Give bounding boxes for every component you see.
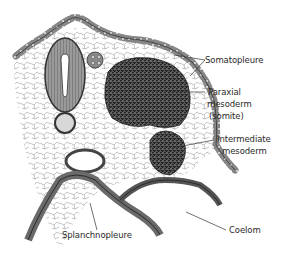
label-coelom: Coelom: [229, 225, 261, 235]
label-paraxial-line3: (somite): [209, 111, 244, 121]
label-somatopleure: Somatopleure: [205, 55, 263, 65]
blood-vessel: [66, 150, 104, 172]
label-intermediate-line1: Intermediate: [217, 134, 271, 144]
neural-tube: [45, 38, 85, 112]
dorsal-cell-cluster: [87, 52, 103, 68]
label-splanchnopleure: Splanchnopleure: [62, 230, 132, 240]
label-intermediate-line2: mesoderm: [222, 146, 267, 156]
label-paraxial-line2: mesoderm: [207, 99, 252, 109]
somatic-lower-layer: [120, 180, 220, 205]
label-paraxial-line1: Paraxial: [208, 87, 241, 97]
notochord: [55, 113, 75, 133]
embryo-cross-section-illustration: [0, 0, 284, 254]
